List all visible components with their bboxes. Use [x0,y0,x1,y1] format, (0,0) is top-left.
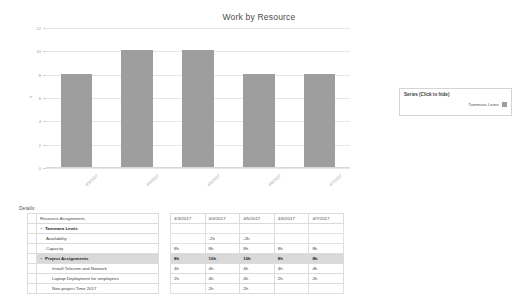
table-row[interactable]: −Tammara Lewis [28,224,159,234]
y-tick-label: 10 [37,49,41,54]
table-row[interactable]: Laptop Deployment for employees [28,274,159,284]
y-tickmark [43,75,46,76]
table-row-values[interactable]: -2h-2h [171,234,344,244]
value-cell: 8h [171,254,206,264]
table-gutter-cell [28,264,37,274]
value-cell: 8h [240,244,275,254]
table-gutter-cell [28,234,37,244]
y-tick-label: 2 [39,142,41,147]
details-table: Resource Assignments−Tammara LewisAvaila… [27,213,331,293]
y-axis-title: h [28,96,33,98]
legend-title: Series (Click to hide) [404,92,507,97]
row-label-cell: Laptop Deployment for employees [37,274,159,284]
y-tick-label: 8 [39,72,41,77]
value-cell: 10h [240,254,275,264]
y-tickmark [43,145,46,146]
table-row-values[interactable]: 2h2h [171,284,344,294]
value-cell: 10h [205,254,240,264]
legend-entry-label: Tammara Lewis [468,102,499,107]
y-tickmark [43,98,46,99]
x-tick-label: 4/3/2017 [84,173,99,187]
column-header-date: 4/6/2017 [274,214,309,224]
table-header-row: Resource Assignments [28,214,159,224]
value-cell [171,284,206,294]
row-label-cell: −Project Assignments [37,254,159,264]
y-tick-label: 4 [39,119,41,124]
value-cell: -2h [205,234,240,244]
y-tick-label: 6 [39,96,41,101]
row-label-cell: Availability [37,234,159,244]
table-row[interactable]: Install Telecom and Network [28,264,159,274]
value-cell: 2h [274,274,309,284]
table-gutter-cell [28,284,37,294]
value-cell: 8h [309,244,344,254]
row-label-cell: Non-project Time 2017 [37,284,159,294]
column-header-date: 4/7/2017 [309,214,344,224]
x-tick-label: 4/5/2017 [206,173,221,187]
row-label-cell: Install Telecom and Network [37,264,159,274]
table-row[interactable]: Capacity [28,244,159,254]
value-cell: 8h [274,244,309,254]
y-tickmark [43,121,46,122]
chart-plot-area: 024681012 [46,28,350,168]
resource-assignments-table: Resource Assignments−Tammara LewisAvaila… [27,213,159,294]
value-cell: 8h [274,254,309,264]
y-tickmark [43,28,46,29]
value-cell: 4h [171,264,206,274]
chart-bar[interactable] [243,74,275,167]
chart-legend[interactable]: Series (Click to hide) Tammara Lewis [399,88,512,116]
value-cell: 4h [240,274,275,284]
chart-bar[interactable] [61,74,93,167]
assignment-values-table: 4/3/20174/4/20174/5/20174/6/20174/7/2017… [170,213,344,294]
legend-color-swatch [502,102,507,107]
table-row[interactable]: Non-project Time 2017 [28,284,159,294]
y-tick-label: 12 [37,26,41,31]
x-tick-label: 4/4/2017 [145,173,160,187]
table-row-values[interactable]: 2h4h4h2h2h [171,274,344,284]
x-axis-tick-labels: 4/3/20174/4/20174/5/20174/6/20174/7/2017 [46,169,350,199]
table-row-values[interactable]: 8h8h8h8h8h [171,244,344,254]
table-row[interactable]: −Project Assignments [28,254,159,264]
value-cell [309,234,344,244]
table-row-values[interactable]: 8h10h10h8h8h [171,254,344,264]
value-cell [171,224,206,234]
value-cell [309,284,344,294]
value-cell: 2h [309,274,344,284]
value-cell: 8h [309,254,344,264]
column-header-date: 4/4/2017 [205,214,240,224]
value-cell: 2h [171,274,206,284]
row-label-cell: −Tammara Lewis [37,224,159,234]
value-cell [205,224,240,234]
chart-bar[interactable] [121,50,153,167]
chart-bar[interactable] [304,74,336,167]
table-gutter-cell [28,254,37,264]
gridline [46,28,350,29]
expander-icon[interactable]: − [40,256,45,261]
table-row-values[interactable] [171,224,344,234]
table-row[interactable]: Availability [28,234,159,244]
legend-entries: Tammara Lewis [404,102,507,107]
table-gutter-cell [28,274,37,284]
value-cell [309,224,344,234]
y-tick-label: 0 [39,166,41,171]
expander-icon[interactable]: − [40,226,45,231]
value-cell: 8h [205,244,240,254]
value-cell [240,224,275,234]
chart-bar[interactable] [182,50,214,167]
value-cell: 2h [205,284,240,294]
value-cell: 4h [205,274,240,284]
work-by-resource-chart: Work by Resource h 024681012 4/3/20174/4… [0,0,518,200]
value-cell [274,224,309,234]
report-page: Work by Resource h 024681012 4/3/20174/4… [0,0,518,302]
y-tickmark [43,51,46,52]
x-tick-label: 4/6/2017 [267,173,282,187]
table-gutter-cell [28,214,37,224]
value-cell: 4h [205,264,240,274]
value-cell: 2h [240,284,275,294]
table-row-values[interactable]: 4h4h4h4h4h [171,264,344,274]
value-cell: 4h [309,264,344,274]
x-tick-label: 4/7/2017 [328,173,343,187]
legend-entry[interactable]: Tammara Lewis [404,102,507,107]
value-cell: 4h [274,264,309,274]
x-axis-line [46,167,350,168]
